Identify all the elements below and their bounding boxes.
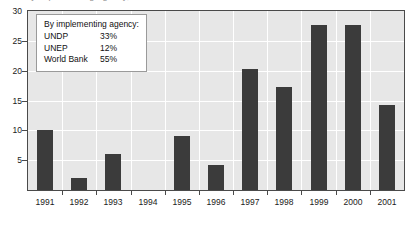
gridline-vertical [370, 11, 371, 190]
gridline-vertical [267, 11, 268, 190]
bar-1992 [71, 178, 87, 190]
bar-1996 [208, 165, 224, 190]
x-axis-label-1999: 1999 [310, 198, 329, 207]
legend-item-value: 33% [100, 31, 130, 42]
gridline-vertical [165, 11, 166, 190]
bar-1995 [174, 136, 190, 190]
legend-item-name: UNDP [44, 31, 100, 42]
x-axis-label-1993: 1993 [104, 198, 123, 207]
bar-2001 [379, 105, 395, 190]
x-axis-tick [165, 191, 166, 195]
x-axis-tick [199, 191, 200, 195]
x-axis-tick [233, 191, 234, 195]
x-axis-tick [301, 191, 302, 195]
bar-1997 [242, 69, 258, 190]
x-axis-label-2001: 2001 [378, 198, 397, 207]
bar-1991 [37, 130, 53, 190]
legend-item-name: World Bank [44, 54, 100, 65]
x-axis-label-1995: 1995 [173, 198, 192, 207]
x-axis-label-1998: 1998 [275, 198, 294, 207]
y-axis-label-15: 15 [13, 96, 22, 105]
x-axis-tick [96, 191, 97, 195]
x-axis-label-1997: 1997 [241, 198, 260, 207]
gridline-vertical [336, 11, 337, 190]
legend-item-value: 12% [100, 43, 130, 54]
x-axis-tick [370, 191, 371, 195]
y-axis-label-10: 10 [13, 126, 22, 135]
gridline-vertical [199, 11, 200, 190]
y-axis-label-20: 20 [13, 66, 22, 75]
x-axis-tick [336, 191, 337, 195]
bar-1998 [276, 87, 292, 190]
bar-1999 [311, 25, 327, 190]
x-axis-tick [267, 191, 268, 195]
legend-item-name: UNEP [44, 43, 100, 54]
y-axis-label-30: 30 [13, 7, 22, 16]
x-axis-tick [62, 191, 63, 195]
y-axis-label-25: 25 [13, 37, 22, 46]
gridline-vertical [233, 11, 234, 190]
x-axis-label-1996: 1996 [207, 198, 226, 207]
bar-2000 [345, 25, 361, 190]
x-axis-label-2000: 2000 [344, 198, 363, 207]
y-axis: 51015202530 [0, 10, 22, 191]
bar-1993 [105, 154, 121, 190]
x-axis-tick [131, 191, 132, 195]
x-axis: 1991199219931994199519961997199819992000… [27, 191, 405, 215]
legend-item: UNDP 33% [44, 31, 139, 42]
gridline-vertical [301, 11, 302, 190]
legend-item-value: 55% [100, 54, 130, 65]
x-axis-label-1994: 1994 [139, 198, 158, 207]
x-axis-label-1991: 1991 [36, 198, 55, 207]
legend-box: By implementing agency: UNDP 33% UNEP 12… [36, 14, 147, 72]
legend-item: World Bank 55% [44, 54, 139, 65]
legend-title: By implementing agency: [44, 19, 139, 30]
legend-item: UNEP 12% [44, 43, 139, 54]
x-axis-label-1992: 1992 [70, 198, 89, 207]
bar-chart: 51015202530 1991199219931994199519961997… [0, 0, 420, 231]
